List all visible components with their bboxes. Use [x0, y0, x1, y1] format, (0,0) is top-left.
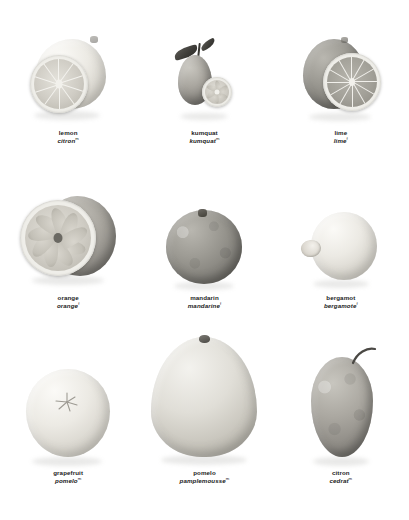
- kumquat-shadow: [180, 113, 228, 120]
- caption-lime: lime limef: [334, 129, 348, 148]
- fruit-illustration-pomelo: [136, 313, 272, 469]
- fruit-grid: lemon citronm: [0, 0, 409, 520]
- grapefruit-stem-star-icon: [54, 391, 80, 413]
- fruit-illustration-citron: [273, 313, 409, 469]
- fruit-name-fr: cedratm: [329, 477, 352, 484]
- fruit-illustration-mandarin: [136, 148, 272, 294]
- fruit-cell-kumquat: kumquat kumquatm: [136, 8, 272, 148]
- caption-grapefruit: grapefruit pomelom: [53, 469, 83, 488]
- fruit-cell-bergamot: bergamot bergamotef: [273, 148, 409, 313]
- citron-whole-fruit: [311, 357, 373, 457]
- gender-mark: f: [356, 301, 357, 306]
- pomelo-artwork: [145, 327, 263, 467]
- fruit-illustration-orange: [0, 148, 136, 294]
- lime-stem-nub: [341, 37, 348, 43]
- fruit-illustration-lemon: [0, 8, 136, 129]
- fruit-name-fr: kumquatm: [189, 137, 219, 144]
- fruit-name-fr: pomelom: [53, 477, 83, 484]
- gender-mark: f: [220, 301, 221, 306]
- grapefruit-shadow: [32, 457, 102, 466]
- fruit-illustration-bergamot: [273, 148, 409, 294]
- grapefruit-whole-fruit: [26, 369, 110, 457]
- fruit-name-en: mandarin: [188, 294, 221, 301]
- gender-mark: f: [347, 136, 348, 141]
- caption-bergamot: bergamot bergamotef: [324, 294, 358, 313]
- caption-lemon: lemon citronm: [57, 129, 78, 148]
- gender-mark: m: [216, 136, 220, 141]
- fruit-illustration-kumquat: [136, 8, 272, 129]
- lime-shadow: [309, 113, 371, 121]
- grapefruit-artwork: [18, 355, 118, 467]
- citron-peel-texture: [311, 357, 373, 457]
- fruit-name-en: pomelo: [180, 469, 230, 476]
- lemon-core: [56, 80, 63, 89]
- citron-artwork: [293, 337, 389, 467]
- kumquat-core: [215, 90, 220, 95]
- fruit-name-fr: citronm: [57, 137, 78, 144]
- orange-artwork: [14, 184, 122, 292]
- lime-artwork: [293, 31, 389, 127]
- fruit-name-en: orange: [57, 294, 80, 301]
- gender-mark: m: [78, 476, 82, 481]
- gender-mark: m: [349, 476, 353, 481]
- fruit-cell-lime: lime limef: [273, 8, 409, 148]
- gender-mark: m: [75, 136, 79, 141]
- fruit-name-fr: orangef: [57, 302, 80, 309]
- fruit-cell-orange: orange orangef: [0, 148, 136, 313]
- caption-orange: orange orangef: [57, 294, 80, 313]
- fruit-cell-pomelo: pomelo pamplemoussem: [136, 313, 272, 488]
- fruit-name-fr: pamplemoussem: [180, 477, 230, 484]
- lime-core: [349, 78, 355, 86]
- lemon-artwork: [20, 31, 116, 127]
- caption-mandarin: mandarin mandarinef: [188, 294, 221, 313]
- lime-cut-half: [323, 53, 381, 111]
- citron-stem-icon: [351, 343, 379, 367]
- kumquat-cut-slice: [202, 77, 232, 107]
- fruit-cell-citron: citron cedratm: [273, 313, 409, 488]
- fruit-name-fr: bergamotef: [324, 302, 358, 309]
- fruit-name-fr: mandarinef: [188, 302, 221, 309]
- mandarin-whole-fruit: [166, 210, 242, 284]
- pomelo-whole-fruit: [151, 337, 257, 457]
- citrus-plate: lemon citronm: [0, 0, 409, 520]
- caption-citron: citron cedratm: [329, 469, 352, 488]
- fruit-illustration-grapefruit: [0, 313, 136, 469]
- caption-pomelo: pomelo pamplemoussem: [180, 469, 230, 488]
- fruit-illustration-lime: [273, 8, 409, 129]
- bergamot-artwork: [295, 196, 387, 292]
- orange-core: [54, 233, 63, 243]
- kumquat-artwork: [156, 31, 252, 127]
- lemon-shadow: [34, 111, 100, 120]
- fruit-cell-grapefruit: grapefruit pomelom: [0, 313, 136, 488]
- fruit-cell-mandarin: mandarin mandarinef: [136, 148, 272, 313]
- gender-mark: f: [78, 301, 79, 306]
- citron-shadow: [313, 457, 369, 466]
- fruit-name-fr: limef: [334, 137, 348, 144]
- gender-mark: m: [226, 476, 230, 481]
- kumquat-leaf-small: [200, 38, 217, 52]
- mandarin-artwork: [158, 196, 250, 292]
- orange-shadow: [32, 276, 104, 285]
- mandarin-peel-texture: [166, 210, 242, 284]
- orange-cut-half: [20, 200, 96, 276]
- lemon-stem-nub: [90, 36, 98, 43]
- fruit-name-en: bergamot: [324, 294, 358, 301]
- caption-kumquat: kumquat kumquatm: [189, 129, 219, 148]
- bergamot-shadow: [313, 280, 369, 288]
- fruit-cell-lemon: lemon citronm: [0, 8, 136, 148]
